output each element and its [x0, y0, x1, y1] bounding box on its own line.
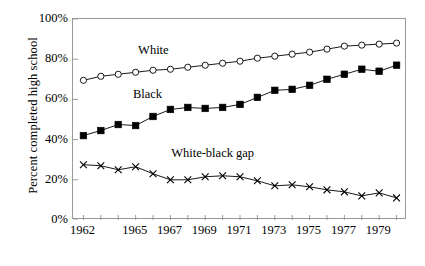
x-tick-label: 1969	[192, 224, 217, 237]
marker-open-circle	[393, 40, 399, 46]
marker-filled-square	[358, 66, 365, 73]
marker-filled-square	[271, 87, 278, 94]
marker-filled-square	[132, 122, 139, 129]
marker-open-circle	[133, 69, 139, 75]
marker-open-circle	[185, 64, 191, 70]
marker-filled-square	[341, 71, 348, 78]
marker-open-circle	[80, 77, 86, 83]
x-tick-label: 1973	[261, 224, 286, 237]
marker-filled-square	[306, 82, 313, 89]
series-line	[83, 65, 396, 135]
series-white	[80, 40, 399, 83]
marker-open-circle	[220, 60, 226, 66]
series-white-black-gap	[80, 161, 400, 201]
marker-filled-square	[167, 106, 174, 113]
marker-filled-square	[289, 86, 296, 93]
marker-open-circle	[98, 73, 104, 79]
x-tick-label: 1967	[157, 224, 182, 237]
series-annotation-black: Black	[133, 88, 162, 101]
plot-area	[72, 18, 406, 219]
marker-open-circle	[289, 51, 295, 57]
marker-open-circle	[324, 46, 330, 52]
marker-filled-square	[393, 62, 400, 69]
marker-filled-square	[80, 132, 87, 139]
x-tick-label: 1965	[122, 224, 147, 237]
x-tick-label: 1962	[70, 224, 95, 237]
marker-open-circle	[115, 71, 121, 77]
marker-filled-square	[202, 105, 209, 112]
marker-filled-square	[376, 68, 383, 75]
marker-open-circle	[376, 41, 382, 47]
marker-open-circle	[202, 62, 208, 68]
marker-filled-square	[237, 101, 244, 108]
marker-open-circle	[254, 55, 260, 61]
chart-svg	[73, 19, 407, 220]
y-tick-label: 60%	[28, 92, 68, 105]
x-axis-tick-labels: 196219651967196919711973197519771979	[0, 224, 425, 246]
series-annotation-white: White	[138, 44, 169, 57]
marker-filled-square	[219, 104, 226, 111]
marker-filled-square	[150, 113, 157, 120]
marker-open-circle	[272, 53, 278, 59]
marker-cross	[150, 170, 157, 177]
y-tick-label: 20%	[28, 173, 68, 186]
marker-open-circle	[167, 66, 173, 72]
marker-open-circle	[359, 42, 365, 48]
marker-open-circle	[306, 49, 312, 55]
marker-open-circle	[237, 58, 243, 64]
marker-cross	[393, 194, 400, 201]
marker-open-circle	[150, 67, 156, 73]
marker-filled-square	[115, 121, 122, 128]
x-tick-label: 1979	[366, 224, 391, 237]
marker-filled-square	[324, 76, 331, 83]
x-tick-label: 1975	[296, 224, 321, 237]
marker-open-circle	[341, 43, 347, 49]
series-line	[83, 165, 396, 198]
y-tick-label: 100%	[28, 12, 68, 25]
y-tick-label: 80%	[28, 52, 68, 65]
marker-filled-square	[254, 94, 261, 101]
marker-cross	[254, 177, 261, 184]
marker-filled-square	[185, 104, 192, 111]
chart-figure: Percent completed high school 0%20%40%60…	[0, 0, 425, 266]
y-tick-label: 40%	[28, 133, 68, 146]
x-tick-label: 1971	[227, 224, 252, 237]
series-annotation-white-black-gap: White-black gap	[171, 147, 254, 160]
marker-filled-square	[98, 127, 105, 134]
x-tick-label: 1977	[331, 224, 356, 237]
